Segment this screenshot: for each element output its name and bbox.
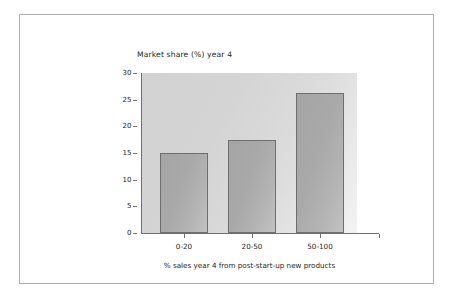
y-tick-mark xyxy=(133,180,137,181)
x-tick-mark xyxy=(184,234,185,238)
y-tick-label: 5 xyxy=(127,202,131,210)
x-tick-mark xyxy=(252,234,253,238)
x-axis-caption: % sales year 4 from post-start-up new pr… xyxy=(142,261,357,270)
page-canvas: Market share (%) year 4 0 5 10 xyxy=(0,0,449,299)
x-tick-mark xyxy=(379,234,380,238)
y-tick-mark xyxy=(133,100,137,101)
x-category-label: 50-100 xyxy=(307,242,332,251)
x-category-label: 20-50 xyxy=(242,242,263,251)
x-category-label: 0-20 xyxy=(176,242,192,251)
y-tick-mark xyxy=(133,206,137,207)
y-tick-mark xyxy=(133,153,137,154)
y-tick-label: 25 xyxy=(123,96,132,104)
bar-0-20 xyxy=(160,153,208,233)
figure-frame: Market share (%) year 4 0 5 10 xyxy=(19,14,434,284)
plot-area: 0 5 10 15 20 xyxy=(142,73,357,233)
y-axis-line xyxy=(141,73,142,233)
y-tick-label: 20 xyxy=(123,122,132,130)
chart-title: Market share (%) year 4 xyxy=(137,50,232,59)
y-tick-label: 15 xyxy=(123,149,132,157)
x-tick-mark xyxy=(320,234,321,238)
bar-chart-figure: Market share (%) year 4 0 5 10 xyxy=(120,37,380,277)
y-tick-label: 30 xyxy=(123,69,132,77)
y-tick-label: 10 xyxy=(123,176,132,184)
y-tick-mark xyxy=(133,233,137,234)
y-tick-mark xyxy=(133,126,137,127)
y-tick-label: 0 xyxy=(127,229,131,237)
y-tick-mark xyxy=(133,73,137,74)
bar-20-50 xyxy=(228,140,276,233)
bar-50-100 xyxy=(296,93,344,233)
